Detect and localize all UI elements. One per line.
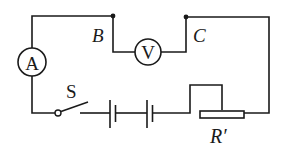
wire-battery-to-rheostat — [153, 85, 223, 113]
node-b-dot — [111, 14, 116, 19]
switch-label: S — [66, 81, 77, 102]
ammeter-symbol: A — [25, 53, 39, 74]
battery-cell-2 — [147, 100, 153, 128]
wire-b-to-voltmeter — [113, 16, 135, 52]
switch-pivot-icon — [55, 110, 61, 116]
ammeter: A — [18, 48, 46, 76]
battery-cell-1 — [110, 100, 116, 128]
node-b-label: B — [92, 25, 104, 46]
node-c-label: C — [193, 25, 206, 46]
switch-blade — [61, 102, 88, 112]
rheostat-resistor-icon — [200, 111, 244, 118]
voltmeter-symbol: V — [141, 42, 155, 63]
circuit-diagram: V B C A S R′ — [0, 0, 287, 150]
voltmeter: V — [135, 39, 161, 65]
rheostat: R′ — [200, 111, 244, 147]
wire-left-bottom — [32, 76, 55, 113]
wire-voltmeter-to-c — [161, 17, 186, 52]
rheostat-label: R′ — [209, 125, 227, 147]
switch: S — [55, 81, 88, 116]
